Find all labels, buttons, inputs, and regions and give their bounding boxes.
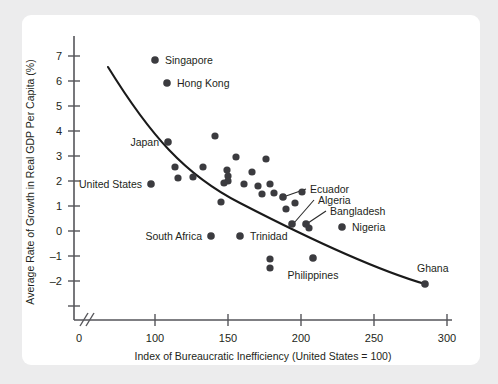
y-tick-label-0: 0 <box>56 225 62 237</box>
trend-curve <box>108 67 425 284</box>
scatter-chart: 7 6 5 4 3 2 1 0 –1 –2 Average Rate of Gr… <box>0 0 498 384</box>
data-point-south-africa[interactable]: South Africa <box>145 230 214 242</box>
screenshot-stage: 7 6 5 4 3 2 1 0 –1 –2 Average Rate of Gr… <box>0 0 498 384</box>
data-point[interactable] <box>211 132 218 139</box>
data-point-marker[interactable] <box>421 280 429 288</box>
y-tick-label-6: 6 <box>56 75 62 87</box>
data-point[interactable] <box>258 190 265 197</box>
data-point-label: Nigeria <box>352 221 385 233</box>
x-tick-label-250: 250 <box>365 332 383 344</box>
data-point-marker[interactable] <box>288 220 296 228</box>
y-tick-label-4: 4 <box>56 125 62 137</box>
data-point-label: United States <box>79 178 142 190</box>
y-axis: 7 6 5 4 3 2 1 0 –1 –2 Average Rate of Gr… <box>24 36 80 320</box>
data-point-marker[interactable] <box>163 79 171 87</box>
data-point[interactable] <box>240 180 247 187</box>
data-point[interactable] <box>266 255 273 262</box>
data-point-label: Japan <box>130 136 159 148</box>
data-point[interactable] <box>174 174 181 181</box>
data-point[interactable] <box>189 173 196 180</box>
data-point[interactable] <box>298 188 305 195</box>
data-point-marker[interactable] <box>164 138 172 146</box>
leader-line-bangladesh <box>308 211 326 223</box>
data-point[interactable] <box>220 179 227 186</box>
data-point-marker[interactable] <box>147 180 155 188</box>
data-point-label: Trinidad <box>250 230 288 242</box>
y-tick-label-3: 3 <box>56 150 62 162</box>
data-point[interactable] <box>171 163 178 170</box>
x-tick-label-300: 300 <box>438 332 456 344</box>
data-point-marker[interactable] <box>236 232 244 240</box>
data-point-label: Bangladesh <box>330 205 386 217</box>
data-point-label: Hong Kong <box>177 77 230 89</box>
x-axis-title: Index of Bureaucratic Inefficiency (Unit… <box>135 350 392 362</box>
x-tick-label-100: 100 <box>146 332 164 344</box>
data-point-philippines[interactable]: Philippines <box>288 254 339 281</box>
x-tick-label-200: 200 <box>292 332 310 344</box>
y-tick-label-neg1: –1 <box>50 250 62 262</box>
data-point-marker[interactable] <box>309 254 317 262</box>
data-point-marker[interactable] <box>338 223 346 231</box>
data-point-marker[interactable] <box>302 220 310 228</box>
data-point[interactable] <box>291 199 298 206</box>
y-tick-label-1: 1 <box>56 200 62 212</box>
data-point[interactable] <box>232 153 239 160</box>
data-point-ghana[interactable]: Ghana <box>417 262 449 288</box>
data-point-marker[interactable] <box>279 193 287 201</box>
data-point[interactable] <box>248 168 255 175</box>
y-axis-title: Average Rate of Growth in Real GDP Per C… <box>24 59 36 304</box>
data-point[interactable] <box>282 205 289 212</box>
data-point-marker[interactable] <box>207 232 215 240</box>
x-tick-label-150: 150 <box>219 332 237 344</box>
data-point-marker[interactable] <box>151 56 159 64</box>
data-point-hong-kong[interactable]: Hong Kong <box>163 77 230 89</box>
x-tick-label-0: 0 <box>76 332 82 344</box>
data-point-trinidad[interactable]: Trinidad <box>236 230 288 242</box>
data-point-nigeria[interactable]: Nigeria <box>338 221 385 233</box>
data-point[interactable] <box>254 182 261 189</box>
data-point[interactable] <box>199 163 206 170</box>
data-point[interactable] <box>217 198 224 205</box>
data-point-label: Singapore <box>165 54 213 66</box>
data-point[interactable] <box>266 264 273 271</box>
data-point[interactable] <box>266 180 273 187</box>
y-tick-label-7: 7 <box>56 50 62 62</box>
data-point-united-states[interactable]: United States <box>79 178 155 190</box>
x-axis: 0 100 150 200 250 300 Index of Bureaucra… <box>74 313 456 362</box>
data-point-label: Ghana <box>417 262 449 274</box>
data-point[interactable] <box>262 155 269 162</box>
data-point[interactable] <box>270 189 277 196</box>
y-tick-label-2: 2 <box>56 175 62 187</box>
data-point[interactable] <box>223 166 230 173</box>
data-points-unlabeled <box>171 132 312 271</box>
y-tick-label-5: 5 <box>56 100 62 112</box>
y-tick-label-neg2: –2 <box>50 275 62 287</box>
data-point-label: South Africa <box>145 230 202 242</box>
data-point-label: Philippines <box>288 269 339 281</box>
data-point-singapore[interactable]: Singapore <box>151 54 213 66</box>
